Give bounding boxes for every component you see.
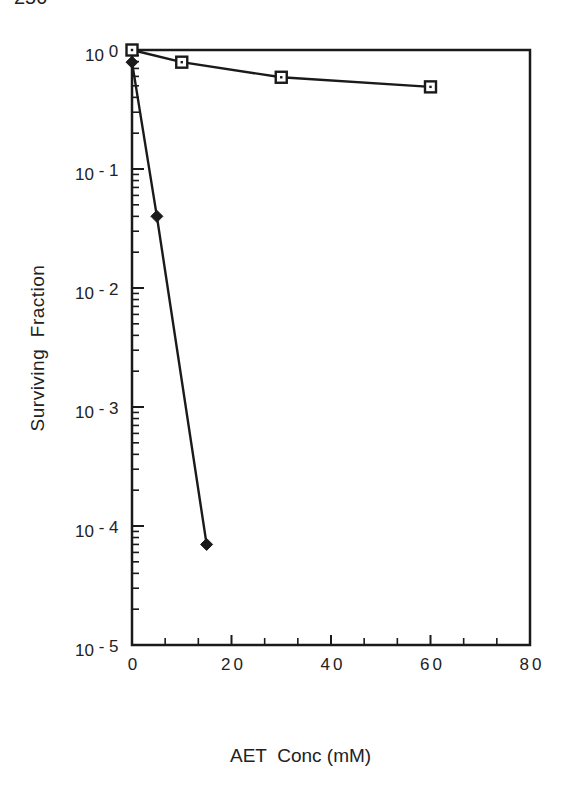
chart-plot xyxy=(0,0,571,792)
filled-diamond-marker xyxy=(151,210,163,222)
series-line xyxy=(132,62,207,544)
y-tick-label: 10 0 xyxy=(85,46,118,66)
filled-diamond-marker xyxy=(201,538,213,550)
x-tick-label: 60 xyxy=(420,655,445,675)
y-axis-ticks xyxy=(132,50,144,645)
x-tick-label: 40 xyxy=(321,655,346,675)
data-series xyxy=(126,45,436,551)
filled-diamond-marker xyxy=(126,56,138,68)
plot-frame xyxy=(132,50,530,645)
x-tick-label: 80 xyxy=(520,655,545,675)
y-tick-label: 10 - 2 xyxy=(75,284,118,304)
x-axis-label: AET Conc (mM) xyxy=(230,745,371,767)
y-axis-label: Surviving Fraction xyxy=(27,265,49,432)
y-tick-label: 10 - 4 xyxy=(75,522,118,542)
y-tick-label: 10 - 1 xyxy=(75,165,118,185)
x-axis-ticks xyxy=(165,635,497,645)
y-tick-label: 10 - 3 xyxy=(75,403,118,423)
y-tick-label: 10 - 5 xyxy=(75,641,118,661)
x-tick-label: 0 xyxy=(128,655,140,675)
x-tick-label: 20 xyxy=(221,655,246,675)
